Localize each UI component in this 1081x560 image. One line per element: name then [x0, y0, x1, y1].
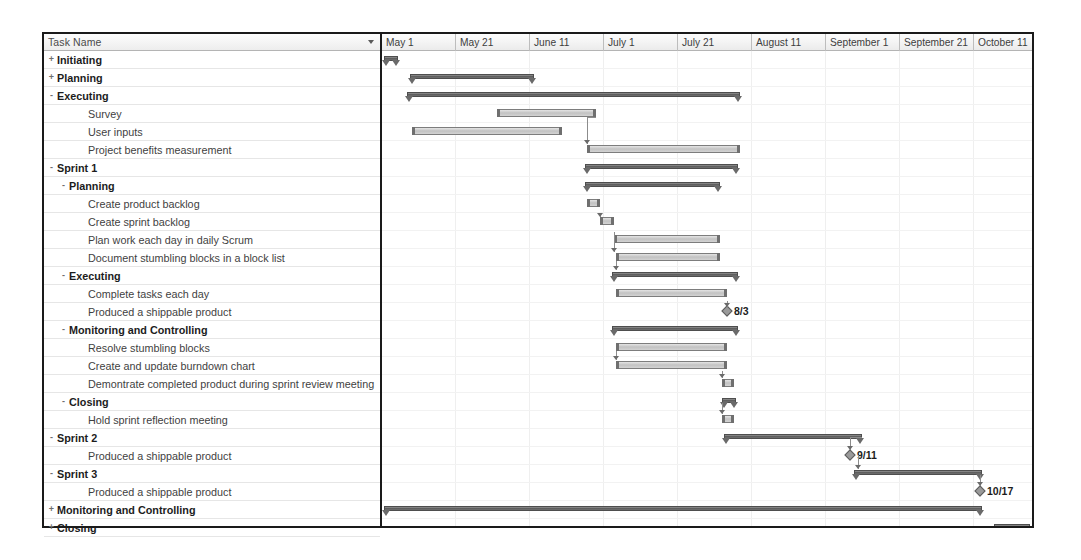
task-row[interactable]: +Closing	[44, 519, 380, 537]
task-row[interactable]: Plan work each day in daily Scrum	[44, 231, 380, 249]
row-separator	[382, 176, 1032, 177]
summary-end-cap-icon	[732, 276, 740, 282]
task-row[interactable]: Demontrate completed product during spri…	[44, 375, 380, 393]
row-separator	[382, 356, 1032, 357]
task-row[interactable]: +Monitoring and Controlling	[44, 501, 380, 519]
chevron-down-icon[interactable]	[368, 40, 374, 44]
expand-icon[interactable]: +	[47, 55, 56, 64]
expand-icon[interactable]: +	[47, 505, 56, 514]
summary-bar[interactable]	[407, 92, 740, 97]
timeline-column-header: September 21	[900, 34, 974, 51]
task-bar[interactable]	[722, 415, 734, 423]
summary-start-cap-icon	[583, 186, 591, 192]
milestone-diamond-icon[interactable]	[721, 305, 732, 316]
task-bar[interactable]	[616, 253, 720, 261]
task-bar[interactable]	[412, 127, 562, 135]
task-bar[interactable]	[497, 109, 596, 117]
row-separator	[382, 248, 1032, 249]
task-row[interactable]: Create product backlog	[44, 195, 380, 213]
task-row[interactable]: Create sprint backlog	[44, 213, 380, 231]
summary-bar[interactable]	[585, 182, 720, 187]
summary-bar[interactable]	[384, 506, 982, 511]
dependency-arrow-icon	[613, 266, 619, 270]
task-row[interactable]: Create and update burndown chart	[44, 357, 380, 375]
collapse-icon[interactable]: -	[59, 397, 68, 406]
summary-end-cap-icon	[732, 330, 740, 336]
summary-bar[interactable]	[722, 398, 736, 403]
task-name-label: Produced a shippable product	[87, 486, 231, 498]
milestone-diamond-icon[interactable]	[844, 449, 855, 460]
task-bar[interactable]	[587, 199, 600, 207]
task-start-bracket-icon	[722, 415, 725, 423]
collapse-icon[interactable]: -	[47, 163, 56, 172]
summary-bar[interactable]	[724, 434, 862, 439]
collapse-icon[interactable]: -	[47, 433, 56, 442]
task-name-label: Plan work each day in daily Scrum	[87, 234, 253, 246]
row-separator	[382, 68, 1032, 69]
expand-icon[interactable]: +	[47, 73, 56, 82]
task-row[interactable]: Complete tasks each day	[44, 285, 380, 303]
task-row[interactable]: User inputs	[44, 123, 380, 141]
summary-bar[interactable]	[854, 470, 982, 475]
task-name-label: Executing	[68, 270, 121, 282]
milestone-diamond-icon[interactable]	[974, 485, 985, 496]
dependency-arrow-icon	[719, 410, 725, 414]
expand-icon[interactable]: +	[47, 523, 56, 532]
task-bar[interactable]	[616, 361, 727, 369]
task-end-bracket-icon	[731, 379, 734, 387]
task-row[interactable]: -Closing	[44, 393, 380, 411]
task-bar[interactable]	[722, 379, 734, 387]
task-bar[interactable]	[614, 235, 720, 243]
task-row[interactable]: Hold sprint reflection meeting	[44, 411, 380, 429]
summary-end-cap-icon	[732, 168, 740, 174]
dependency-arrow-icon	[855, 465, 861, 469]
task-row[interactable]: -Sprint 1	[44, 159, 380, 177]
dependency-arrow-icon	[719, 374, 725, 378]
task-row[interactable]: +Initiating	[44, 51, 380, 69]
collapse-icon[interactable]: -	[47, 91, 56, 100]
task-row[interactable]: -Executing	[44, 87, 380, 105]
task-row[interactable]: Document stumbling blocks in a block lis…	[44, 249, 380, 267]
task-row[interactable]: Survey	[44, 105, 380, 123]
task-row[interactable]: Produced a shippable product	[44, 303, 380, 321]
task-bar[interactable]	[616, 343, 727, 351]
milestone-date-label: 8/3	[734, 305, 749, 317]
summary-bar[interactable]	[585, 164, 738, 169]
task-row[interactable]: -Sprint 3	[44, 465, 380, 483]
row-separator	[382, 320, 1032, 321]
dependency-arrow-icon	[611, 248, 617, 252]
task-row[interactable]: -Monitoring and Controlling	[44, 321, 380, 339]
row-separator	[382, 158, 1032, 159]
task-row[interactable]: -Sprint 2	[44, 429, 380, 447]
task-start-bracket-icon	[497, 109, 500, 117]
task-row[interactable]: +Planning	[44, 69, 380, 87]
collapse-icon[interactable]: -	[59, 181, 68, 190]
task-row[interactable]: -Executing	[44, 267, 380, 285]
task-row[interactable]: Resolve stumbling blocks	[44, 339, 380, 357]
summary-bar[interactable]	[612, 326, 738, 331]
task-end-bracket-icon	[731, 415, 734, 423]
collapse-icon[interactable]: -	[59, 325, 68, 334]
timeline-column-header: October 11	[974, 34, 1032, 51]
row-separator	[382, 230, 1032, 231]
task-row[interactable]: Produced a shippable product	[44, 483, 380, 501]
summary-bar[interactable]	[410, 74, 534, 79]
row-separator	[382, 302, 1032, 303]
summary-bar[interactable]	[384, 56, 398, 61]
task-grid-header[interactable]: Task Name	[44, 34, 380, 51]
task-row[interactable]: Produced a shippable product	[44, 447, 380, 465]
task-bar[interactable]	[587, 145, 740, 153]
task-row[interactable]: -Planning	[44, 177, 380, 195]
summary-bar[interactable]	[994, 524, 1030, 526]
task-bar[interactable]	[616, 289, 727, 297]
summary-start-cap-icon	[610, 330, 618, 336]
gantt-chart-window: Task Name +Initiating+Planning-Executing…	[42, 32, 1034, 528]
dependency-arrow-icon	[597, 213, 603, 217]
task-bar[interactable]	[600, 217, 614, 225]
row-separator	[382, 140, 1032, 141]
collapse-icon[interactable]: -	[47, 469, 56, 478]
summary-bar[interactable]	[612, 272, 738, 277]
summary-end-cap-icon	[528, 78, 536, 84]
collapse-icon[interactable]: -	[59, 271, 68, 280]
task-row[interactable]: Project benefits measurement	[44, 141, 380, 159]
